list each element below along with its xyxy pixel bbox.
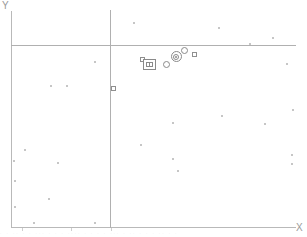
y-axis-label: Y xyxy=(2,1,9,11)
scatter-point xyxy=(272,37,274,39)
scatter-point xyxy=(14,206,16,208)
scatter-point xyxy=(221,115,223,117)
scatter-point xyxy=(133,22,135,24)
scatter-point xyxy=(140,144,142,146)
scatter-point xyxy=(292,109,294,111)
scatter-point xyxy=(14,180,16,182)
scatter-point xyxy=(24,149,26,151)
scatter-point xyxy=(50,85,52,87)
scatter-point xyxy=(94,222,96,224)
scatter-point xyxy=(94,61,96,63)
scatter-point xyxy=(249,43,251,45)
scatter-point xyxy=(218,27,220,29)
square-marker xyxy=(192,52,197,57)
scatter-point xyxy=(286,63,288,65)
scatter-point xyxy=(48,198,50,200)
circle-marker xyxy=(163,61,170,68)
scatter-point xyxy=(33,222,35,224)
scatter-point xyxy=(172,158,174,160)
scatter-point xyxy=(177,170,179,172)
scatter-point xyxy=(264,123,266,125)
footer-artifact: · · ·· · · ··· · · · ···· · · · · ··· · … xyxy=(0,231,307,235)
bullseye-marker xyxy=(171,51,182,62)
scatter-point xyxy=(13,160,15,162)
scatter-point xyxy=(291,163,293,165)
scatter-point xyxy=(172,122,174,124)
y-axis-line xyxy=(11,11,12,227)
circle-marker xyxy=(181,47,188,54)
scatter-point xyxy=(57,162,59,164)
scatter-point xyxy=(66,85,68,87)
horizontal-reference-line xyxy=(11,45,296,46)
scatter-plot-canvas: Y X · · ·· · · ··· · · · ···· · · · · ··… xyxy=(0,0,307,237)
vertical-reference-line xyxy=(110,10,111,228)
square-marker xyxy=(111,86,116,91)
x-axis-line xyxy=(11,227,296,228)
scatter-point xyxy=(291,154,293,156)
nested-square-marker xyxy=(143,59,156,70)
